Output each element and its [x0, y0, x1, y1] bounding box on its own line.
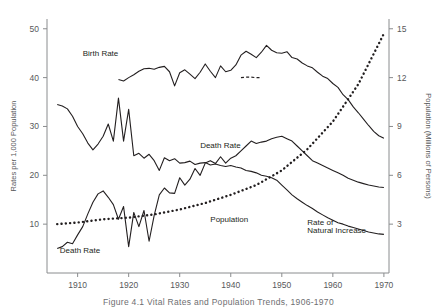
x-axis-tick-label: 1920: [119, 280, 138, 290]
y-axis-tick-label: 10: [30, 219, 40, 229]
y-axis-tick-label: 40: [30, 73, 40, 83]
chart-background: [0, 0, 437, 307]
y-axis-title: Rates per 1,000 Population: [9, 101, 18, 192]
series-annotation-label: Death Rate: [200, 141, 241, 150]
series-annotation-label: Birth Rate: [83, 49, 119, 58]
y-axis-tick-label: 30: [30, 121, 40, 131]
x-axis-tick-label: 1970: [374, 280, 393, 290]
y2-axis-tick-label: 12: [397, 73, 407, 83]
series-annotation-label: Population: [210, 215, 248, 224]
series-annotation-label: Death Rate: [60, 246, 101, 255]
x-axis-tick-label: 1950: [272, 280, 291, 290]
x-axis-tick-label: 1930: [170, 280, 189, 290]
y-axis-tick-label: 20: [30, 170, 40, 180]
y2-axis-title: Population (Millions of Persons): [424, 93, 433, 199]
x-axis-tick-label: 1940: [221, 280, 240, 290]
y-axis-tick-label: 50: [30, 24, 40, 34]
y2-axis-tick-label: 3: [397, 219, 402, 229]
y2-axis-tick-label: 15: [397, 24, 407, 34]
y2-axis-tick-label: 6: [397, 170, 402, 180]
figure-container: 1020304050369121519101920193019401950196…: [0, 0, 437, 307]
x-axis-tick-label: 1910: [68, 280, 87, 290]
y2-axis-tick-label: 9: [397, 121, 402, 131]
series-annotation-label: Natural Increase: [307, 226, 366, 235]
figure-caption: Figure 4.1 Vital Rates and Population Tr…: [0, 297, 437, 307]
vital-rates-line-chart: 1020304050369121519101920193019401950196…: [0, 0, 437, 307]
x-axis-tick-label: 1960: [323, 280, 342, 290]
